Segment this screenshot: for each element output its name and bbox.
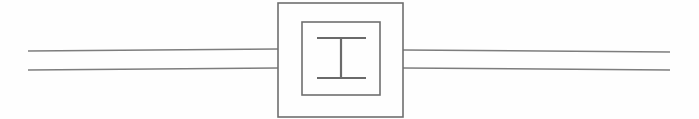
canvas-background [0,0,699,119]
drawing-canvas: Two-conductor transmission line with inl… [0,0,699,119]
line-drawing-svg [0,0,699,119]
